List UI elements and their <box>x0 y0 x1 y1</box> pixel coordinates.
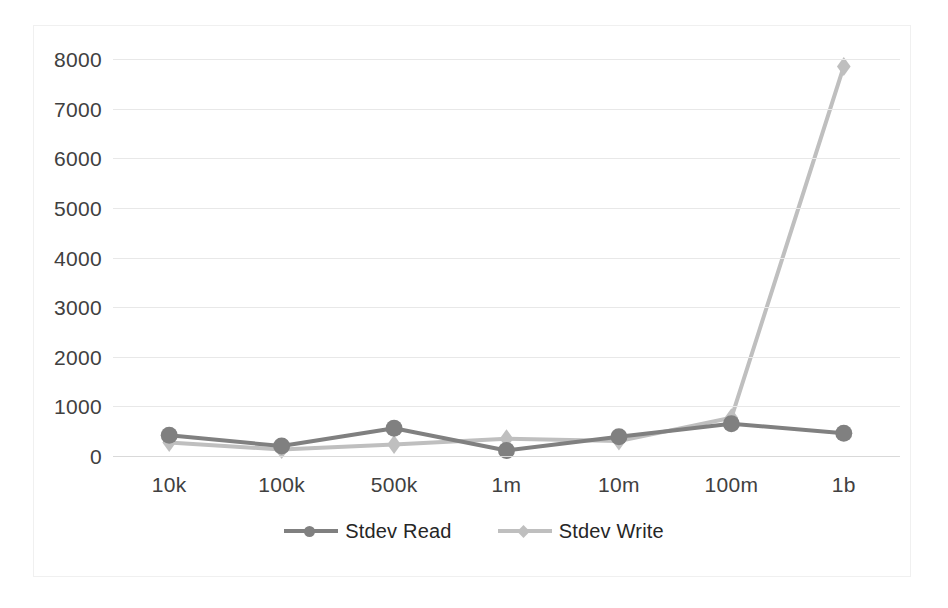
data-point-marker <box>723 415 740 432</box>
x-tick-label: 1m <box>492 474 522 495</box>
y-tick-label: 2000 <box>30 347 102 368</box>
gridline <box>113 406 900 407</box>
gridline <box>113 258 900 259</box>
y-tick-label: 6000 <box>30 148 102 169</box>
legend-entry[interactable]: Stdev Read <box>284 521 452 541</box>
x-tick-label: 100k <box>258 474 305 495</box>
gridline <box>113 307 900 308</box>
x-axis-line <box>113 456 900 457</box>
legend-entry[interactable]: Stdev Write <box>498 521 664 541</box>
plot-area <box>113 59 900 456</box>
data-point-marker <box>386 420 403 437</box>
data-point-marker <box>835 425 852 442</box>
gridline <box>113 208 900 209</box>
y-axis-tick-labels: 010002000300040005000600070008000 <box>30 59 102 456</box>
y-tick-label: 4000 <box>30 248 102 269</box>
gridline <box>113 59 900 60</box>
chart-container: 010002000300040005000600070008000 10k100… <box>0 0 948 608</box>
legend-swatch-icon <box>284 523 338 539</box>
chart-legend: Stdev ReadStdev Write <box>0 521 948 541</box>
data-point-marker <box>161 427 178 444</box>
gridline <box>113 158 900 159</box>
y-tick-label: 8000 <box>30 49 102 70</box>
legend-label: Stdev Read <box>345 521 452 541</box>
legend-label: Stdev Write <box>559 521 664 541</box>
y-tick-label: 3000 <box>30 297 102 318</box>
data-point-marker <box>273 438 290 455</box>
gridline <box>113 357 900 358</box>
y-tick-label: 7000 <box>30 99 102 120</box>
gridline <box>113 109 900 110</box>
y-tick-label: 0 <box>30 446 102 467</box>
x-tick-label: 10k <box>152 474 187 495</box>
y-tick-label: 1000 <box>30 396 102 417</box>
x-tick-label: 10m <box>598 474 640 495</box>
y-tick-label: 5000 <box>30 198 102 219</box>
x-tick-label: 500k <box>371 474 418 495</box>
data-point-marker <box>610 428 627 445</box>
x-tick-label: 1b <box>832 474 856 495</box>
x-axis-tick-labels: 10k100k500k1m10m100m1b <box>0 474 948 504</box>
legend-swatch-icon <box>498 523 552 539</box>
data-point-marker <box>387 435 401 454</box>
x-tick-label: 100m <box>704 474 758 495</box>
